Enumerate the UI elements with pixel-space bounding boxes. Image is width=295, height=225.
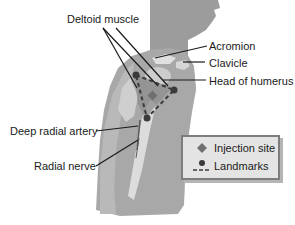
landmark-dot-acromion — [133, 72, 140, 79]
landmark-dot-dash-icon — [191, 159, 213, 173]
anatomy-illustration — [0, 0, 295, 225]
diamond-icon — [196, 142, 208, 154]
label-deep-radial-artery: Deep radial artery — [10, 125, 97, 137]
landmark-dot-lateral — [171, 87, 178, 94]
deltoid-injection-diagram: Deltoid muscle Acromion Clavicle Head of… — [0, 0, 295, 225]
label-clavicle: Clavicle — [209, 57, 248, 69]
label-radial-nerve: Radial nerve — [34, 160, 96, 172]
label-acromion: Acromion — [209, 40, 255, 52]
legend-label-landmarks: Landmarks — [214, 160, 268, 172]
legend-label-injection-site: Injection site — [214, 142, 275, 154]
label-head-of-humerus: Head of humerus — [209, 75, 293, 87]
landmark-dot-axilla — [144, 115, 151, 122]
label-deltoid-muscle: Deltoid muscle — [67, 13, 139, 25]
legend-box: Injection site Landmarks — [181, 135, 280, 180]
